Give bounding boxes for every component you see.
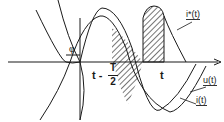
hatched-area-mid (112, 28, 143, 62)
hatched-area-upper (143, 6, 164, 62)
u-label: u(t) (203, 76, 217, 86)
t-minus-label: t - (92, 70, 102, 81)
frac-denominator: 2 (108, 77, 118, 87)
curve-i-star (164, 16, 186, 62)
leader-i-star (177, 22, 192, 30)
i-label: i(t) (196, 96, 207, 106)
i-star-label: i*(t) (186, 10, 200, 20)
phi-label: φ (69, 45, 75, 54)
frac-numerator: T (108, 63, 118, 73)
t-label: t (160, 70, 164, 81)
